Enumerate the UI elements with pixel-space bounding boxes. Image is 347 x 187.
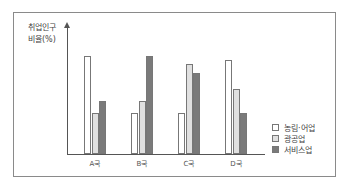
bar — [240, 113, 247, 154]
bar — [193, 73, 200, 154]
bar — [99, 101, 106, 154]
bar — [84, 56, 91, 154]
legend-label: 서비스업 — [284, 144, 312, 155]
x-tick-label: D국 — [221, 158, 251, 168]
y-axis-label: 취업인구 비율(%) — [28, 22, 56, 46]
bar — [131, 113, 138, 154]
legend: 농림·어업 광공업 서비스업 — [272, 122, 315, 155]
legend-item: 서비스업 — [272, 144, 315, 155]
x-tick-label: A국 — [80, 158, 110, 168]
legend-swatch — [272, 135, 279, 142]
bar — [146, 56, 153, 154]
legend-label: 농림·어업 — [284, 122, 315, 133]
bar — [92, 113, 99, 154]
legend-swatch — [272, 146, 279, 153]
y-axis-label-line1: 취업인구 — [28, 22, 56, 34]
bar — [225, 60, 232, 154]
x-tick-label: B국 — [127, 158, 157, 168]
bar — [178, 113, 185, 154]
x-axis — [67, 154, 265, 155]
legend-label: 광공업 — [284, 133, 305, 144]
legend-item: 광공업 — [272, 133, 315, 144]
bar — [139, 101, 146, 154]
legend-swatch — [272, 124, 279, 131]
bar — [233, 89, 240, 154]
y-axis-label-line2: 비율(%) — [28, 34, 56, 46]
x-tick-label: C국 — [174, 158, 204, 168]
bar — [186, 64, 193, 154]
legend-item: 농림·어업 — [272, 122, 315, 133]
y-axis — [67, 26, 68, 154]
